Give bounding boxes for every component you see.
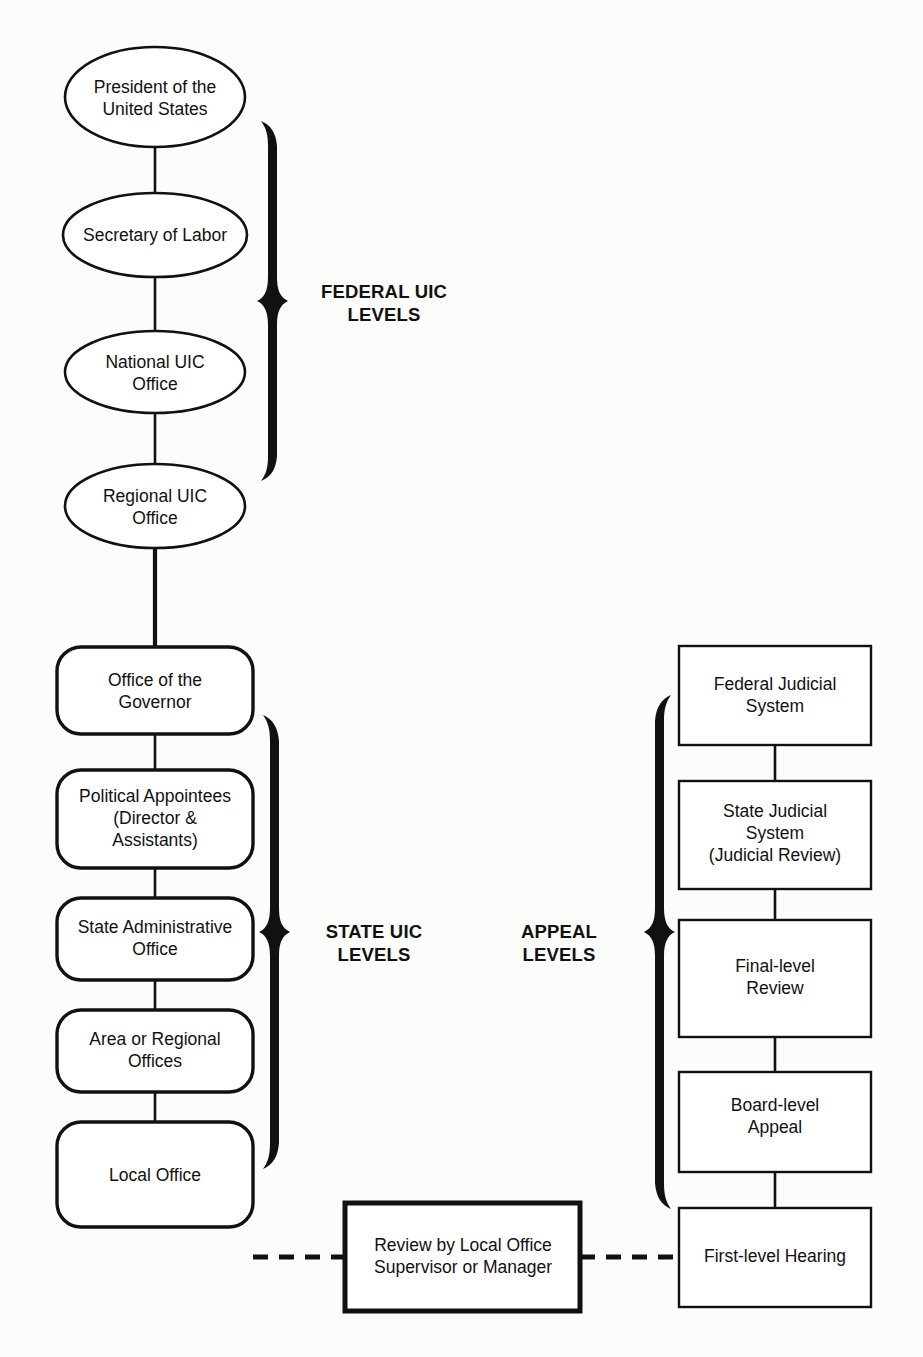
- node-area-or-regional-offices[interactable]: Area or Regional Offices: [57, 1010, 253, 1092]
- federal-levels-label-line2: LEVELS: [347, 304, 420, 325]
- office-of-the-governor-box: [57, 647, 253, 734]
- political-appointees-label-line3: Assistants): [112, 830, 198, 850]
- state-levels-brace: [259, 715, 290, 1169]
- node-federal-judicial-system[interactable]: Federal Judicial System: [679, 646, 871, 745]
- regional-uic-office-label-line1: Regional UIC: [103, 486, 207, 506]
- federal-levels-brace-group: FEDERAL UIC LEVELS: [257, 121, 447, 481]
- area-or-regional-offices-label-line2: Offices: [128, 1051, 182, 1071]
- node-review-by-local-office-supervisor[interactable]: Review by Local Office Supervisor or Man…: [345, 1203, 580, 1311]
- state-administrative-office-label-line2: Office: [132, 939, 177, 959]
- node-office-of-the-governor[interactable]: Office of the Governor: [57, 647, 253, 734]
- state-judicial-system-label-line1: State Judicial: [723, 801, 827, 821]
- review-by-local-office-supervisor-label-line2: Supervisor or Manager: [374, 1257, 552, 1277]
- federal-levels-brace: [257, 121, 288, 481]
- political-appointees-label-line1: Political Appointees: [79, 786, 231, 806]
- regional-uic-office-label-line2: Office: [132, 508, 177, 528]
- node-board-level-appeal[interactable]: Board-level Appeal: [679, 1072, 871, 1172]
- node-first-level-hearing[interactable]: First-level Hearing: [679, 1208, 871, 1307]
- review-by-local-office-supervisor-label-line1: Review by Local Office: [374, 1235, 552, 1255]
- appeal-levels-label-line1: APPEAL: [521, 921, 597, 942]
- area-or-regional-offices-label-line1: Area or Regional: [89, 1029, 220, 1049]
- federal-judicial-system-label-line2: System: [746, 696, 804, 716]
- state-levels-brace-group: STATE UIC LEVELS: [259, 715, 422, 1169]
- national-uic-office-label-line2: Office: [132, 374, 177, 394]
- appeal-levels-brace-group: APPEAL LEVELS: [521, 695, 675, 1209]
- federal-judicial-system-label-line1: Federal Judicial: [714, 674, 837, 694]
- federal-levels-label-line1: FEDERAL UIC: [321, 281, 447, 302]
- node-state-judicial-system[interactable]: State Judicial System (Judicial Review): [679, 781, 871, 889]
- flowchart-canvas: President of the United States Secretary…: [0, 0, 923, 1357]
- regional-uic-office-ellipse: [65, 464, 245, 548]
- state-judicial-system-label-line2: System: [746, 823, 804, 843]
- node-national-uic-office[interactable]: National UIC Office: [65, 331, 245, 413]
- node-final-level-review[interactable]: Final-level Review: [679, 920, 871, 1037]
- president-label-line1: President of the: [94, 77, 217, 97]
- president-ellipse: [65, 47, 245, 147]
- political-appointees-label-line2: (Director &: [113, 808, 197, 828]
- president-label-line2: United States: [102, 99, 207, 119]
- state-levels-label-line2: LEVELS: [337, 944, 410, 965]
- final-level-review-label-line1: Final-level: [735, 956, 815, 976]
- board-level-appeal-label-line2: Appeal: [748, 1117, 803, 1137]
- state-judicial-system-label-line3: (Judicial Review): [709, 845, 841, 865]
- local-office-label-line1: Local Office: [109, 1165, 201, 1185]
- node-local-office[interactable]: Local Office: [57, 1122, 253, 1227]
- state-administrative-office-label-line1: State Administrative: [78, 917, 233, 937]
- office-of-the-governor-label-line1: Office of the: [108, 670, 202, 690]
- node-state-administrative-office[interactable]: State Administrative Office: [57, 898, 253, 980]
- final-level-review-label-line2: Review: [746, 978, 804, 998]
- office-of-the-governor-label-line2: Governor: [119, 692, 192, 712]
- first-level-hearing-label-line1: First-level Hearing: [704, 1246, 846, 1266]
- node-secretary-of-labor[interactable]: Secretary of Labor: [63, 193, 247, 277]
- appeal-levels-label-line2: LEVELS: [522, 944, 595, 965]
- appeal-levels-brace: [644, 695, 675, 1209]
- secretary-of-labor-label-line1: Secretary of Labor: [83, 225, 227, 245]
- national-uic-office-ellipse: [65, 331, 245, 413]
- node-regional-uic-office[interactable]: Regional UIC Office: [65, 464, 245, 548]
- state-levels-label-line1: STATE UIC: [326, 921, 423, 942]
- node-political-appointees[interactable]: Political Appointees (Director & Assista…: [57, 770, 253, 868]
- flowchart-diagram: President of the United States Secretary…: [0, 0, 923, 1357]
- board-level-appeal-label-line1: Board-level: [731, 1095, 820, 1115]
- national-uic-office-label-line1: National UIC: [105, 352, 204, 372]
- node-president[interactable]: President of the United States: [65, 47, 245, 147]
